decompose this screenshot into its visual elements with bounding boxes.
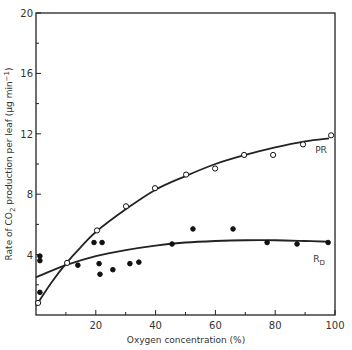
chart: 2040608010048121620 PRRD Oxygen concentr… — [0, 0, 352, 350]
open-circle-marker — [329, 133, 334, 138]
plot-frame — [36, 13, 335, 315]
filled-circle-marker — [295, 242, 300, 247]
fit-curve-rd — [36, 240, 329, 277]
x-tick-label: 100 — [325, 320, 344, 331]
open-circle-marker — [271, 152, 276, 157]
open-circle-marker — [183, 172, 188, 177]
y-tick-label: 4 — [27, 250, 33, 261]
open-circle-marker — [300, 142, 305, 147]
open-circle-marker — [242, 152, 247, 157]
y-axis-label-text: Rate of CO2 production per leaf (µg min−… — [3, 68, 17, 261]
filled-circle-marker — [38, 254, 43, 259]
x-tick-label: 20 — [89, 320, 102, 331]
filled-circle-marker — [231, 227, 236, 232]
open-circle-marker — [94, 228, 99, 233]
pr-label: PR — [315, 145, 327, 155]
filled-circle-marker — [170, 242, 175, 247]
y-axis-label: Rate of CO2 production per leaf (µg min−… — [3, 68, 17, 261]
plot-axes: 2040608010048121620 — [20, 8, 344, 331]
x-tick-label: 80 — [269, 320, 282, 331]
y-tick-label: 16 — [20, 68, 33, 79]
filled-circle-marker — [98, 272, 103, 277]
filled-circle-marker — [137, 260, 142, 265]
x-axis-label: Oxygen concentration (%) — [127, 335, 245, 345]
open-circle-marker — [213, 166, 218, 171]
data-points — [35, 133, 333, 306]
x-tick-label: 60 — [209, 320, 222, 331]
y-tick-label: 20 — [20, 8, 33, 19]
open-circle-marker — [64, 260, 69, 265]
series-labels: PRRD — [313, 145, 327, 267]
filled-circle-marker — [191, 227, 196, 232]
filled-circle-marker — [38, 290, 43, 295]
y-tick-label: 12 — [20, 129, 33, 140]
filled-circle-marker — [326, 240, 331, 245]
filled-circle-marker — [97, 261, 102, 266]
x-tick-label: 40 — [149, 320, 162, 331]
open-circle-marker — [35, 300, 40, 305]
filled-circle-marker — [111, 267, 116, 272]
filled-circle-marker — [76, 263, 81, 268]
filled-circle-marker — [128, 261, 133, 266]
open-circle-marker — [123, 204, 128, 209]
filled-circle-marker — [265, 240, 270, 245]
fit-curves — [36, 138, 329, 306]
rd-label: RD — [313, 254, 325, 267]
fit-curve-pr — [36, 138, 329, 306]
filled-circle-marker — [38, 258, 43, 263]
filled-circle-marker — [100, 240, 105, 245]
open-circle-marker — [152, 186, 157, 191]
filled-circle-marker — [92, 240, 97, 245]
y-tick-label: 8 — [27, 189, 33, 200]
